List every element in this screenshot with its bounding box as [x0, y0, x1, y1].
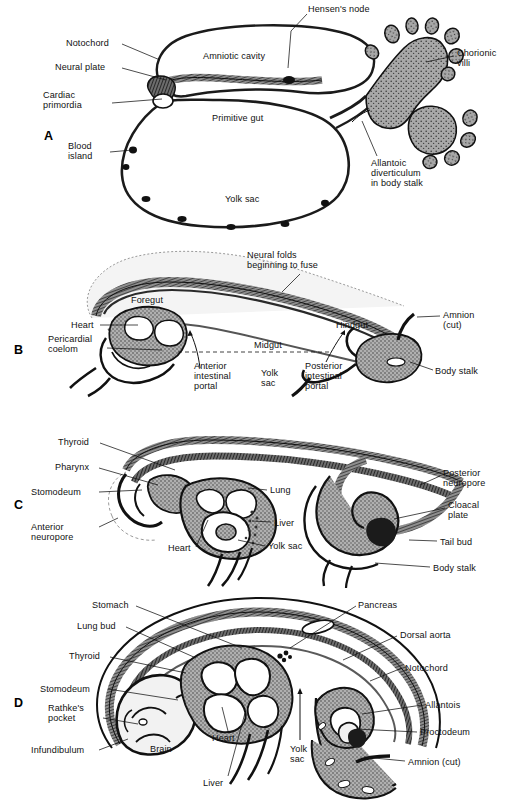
leader-line [410, 362, 433, 370]
leader-line [370, 668, 402, 681]
leader-line [417, 316, 440, 317]
label-thyroid: Thyroid [69, 651, 100, 661]
leader-line [362, 705, 422, 714]
label-amnion-cut: Amnion (cut) [408, 757, 461, 767]
label-rathke-s-pocket: Rathke's pocket [48, 703, 84, 723]
label-cardiac-primordia: Cardiac primordia [43, 90, 82, 110]
label-stomach: Stomach [92, 600, 129, 610]
label-body-stalk: Body stalk [433, 563, 476, 573]
label-neural-plate: Neural plate [55, 62, 105, 72]
leader-line [99, 490, 142, 492]
label-infundibulum: Infundibulum [31, 745, 84, 755]
leader-line [420, 476, 440, 485]
label-midgut: Midgut [254, 340, 282, 350]
leader-line [426, 56, 454, 62]
label-stomodeum: Stomodeum [31, 487, 81, 497]
leader-line [394, 508, 445, 519]
label-cloacal-plate: Cloacal plate [448, 500, 479, 520]
label-pericardial-coelom: Pericardial coelom [48, 334, 92, 354]
label-notochord: Notochord [66, 38, 109, 48]
label-liver: Liver [274, 518, 294, 528]
leader-line [222, 707, 228, 731]
label-hensen-s-node: Hensen's node [308, 4, 370, 14]
panel-letter-d: D [14, 696, 23, 710]
leader-line [282, 274, 300, 292]
leader-line [99, 518, 118, 527]
label-yolk-sac: Yolk sac [261, 368, 278, 388]
panel-letter-b: B [14, 343, 23, 357]
label-foregut: Foregut [131, 295, 163, 305]
leader-line [364, 757, 405, 761]
leader-line [375, 563, 430, 567]
label-brain: Brain [150, 744, 172, 754]
label-chorionic-villi: Chorionic villi [457, 48, 496, 68]
label-hindgut: Hindgut [336, 320, 368, 330]
leader-line [122, 44, 160, 60]
leader-line [362, 121, 377, 156]
label-yolk-sac: Yolk sac [268, 541, 302, 551]
embryology-figure: A B C D Hensen's nodeNotochordNeural pla… [0, 0, 511, 804]
leader-line [290, 606, 356, 648]
leader-line [122, 68, 166, 80]
leader-line [356, 729, 417, 732]
label-lung: Lung [270, 485, 291, 495]
label-anterior-neuropore: Anterior neuropore [31, 522, 73, 542]
label-allantoic-diverticulum-in-body-stalk: Allantoic diverticulum in body stalk [371, 158, 423, 189]
leader-line [409, 540, 437, 541]
leader-line [103, 718, 138, 724]
leader-line [99, 739, 128, 750]
label-heart: Heart [71, 320, 94, 330]
leader-line [248, 488, 267, 490]
label-amniotic-cavity: Amniotic cavity [203, 51, 265, 61]
leader-line [112, 99, 162, 103]
leader-line [110, 657, 186, 673]
label-amnion-cut: Amnion (cut) [443, 310, 474, 330]
label-posterior-neuropore: Posterior neuropore [443, 468, 485, 488]
label-liver: Liver [203, 778, 223, 788]
label-dorsal-aorta: Dorsal aorta [400, 630, 451, 640]
leader-line [100, 443, 175, 470]
label-heart: Heart [168, 543, 191, 553]
label-proctodeum: Proctodeum [420, 727, 470, 737]
leader-line [110, 150, 132, 152]
leader-line [196, 520, 208, 547]
leader-line [107, 348, 162, 350]
label-thyroid: Thyroid [58, 437, 89, 447]
label-allantois: Allantois [425, 700, 460, 710]
panel-letter-a: A [44, 129, 53, 143]
label-heart: Heart [212, 733, 235, 743]
label-lung-bud: Lung bud [77, 621, 116, 631]
label-body-stalk: Body stalk [435, 366, 478, 376]
leader-line [108, 689, 178, 700]
label-tail-bud: Tail bud [440, 537, 472, 547]
label-anterior-intestinal-portal: Anterior intestinal portal [194, 361, 231, 392]
label-pancreas: Pancreas [358, 600, 397, 610]
label-yolk-sac: Yolk sac [225, 194, 259, 204]
label-blood-island: Blood island [68, 141, 92, 161]
leader-line [252, 521, 271, 522]
leader-line [126, 627, 196, 658]
label-neural-folds-beginning-to-fuse: Neural folds beginning to fuse [247, 250, 318, 270]
label-primitive-gut: Primitive gut [212, 113, 263, 123]
label-posterior-intestinal-portal: Posterior intestinal portal [305, 361, 342, 392]
label-stomodeum: Stomodeum [40, 684, 90, 694]
panel-letter-c: C [14, 498, 23, 512]
leader-line [288, 14, 307, 68]
leader-line [238, 540, 265, 546]
leader-line [228, 713, 245, 776]
label-pharynx: Pharynx [55, 462, 89, 472]
label-notochord: Notochord [405, 663, 448, 673]
leader-line [343, 636, 397, 660]
label-yolk-sac: Yolk sac [290, 744, 307, 764]
leader-line [136, 606, 242, 648]
leader-line [99, 468, 158, 485]
